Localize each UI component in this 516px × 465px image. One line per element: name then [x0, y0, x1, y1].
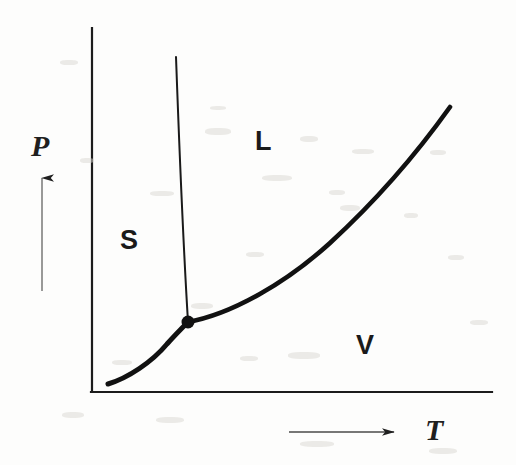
vaporization-curve: [188, 107, 450, 322]
triple-point-marker: [182, 316, 195, 329]
fusion-curve: [176, 57, 188, 322]
vapor-region-label: V: [356, 332, 375, 359]
sublimation-curve: [108, 322, 188, 384]
liquid-region-label: L: [255, 128, 272, 155]
phase-diagram-figure: S L V P T: [0, 0, 516, 465]
pressure-axis-label: P: [31, 131, 49, 161]
solid-region-label: S: [120, 227, 139, 254]
temperature-axis-label: T: [425, 415, 443, 445]
phase-diagram-canvas: [0, 0, 516, 465]
